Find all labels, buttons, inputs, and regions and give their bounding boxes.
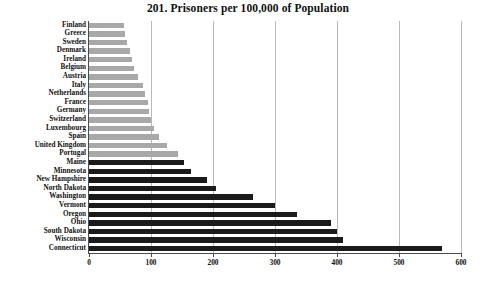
tick-label-500: 500 <box>393 258 404 267</box>
tick-mark-300 <box>275 253 276 257</box>
chart-figure: 201. Prisoners per 100,000 of Population… <box>0 0 496 281</box>
tick-mark-200 <box>213 253 214 257</box>
tick-mark-500 <box>399 253 400 257</box>
tick-label-300: 300 <box>269 258 280 267</box>
tick-label-400: 400 <box>331 258 342 267</box>
tick-mark-600 <box>461 253 462 257</box>
tick-label-0: 0 <box>87 258 91 267</box>
tick-mark-100 <box>151 253 152 257</box>
tick-label-100: 100 <box>145 258 156 267</box>
tick-label-600: 600 <box>455 258 466 267</box>
tick-mark-400 <box>337 253 338 257</box>
tick-label-200: 200 <box>207 258 218 267</box>
tick-mark-0 <box>89 253 90 257</box>
x-axis-ticks: 0100200300400500600 <box>0 0 496 281</box>
